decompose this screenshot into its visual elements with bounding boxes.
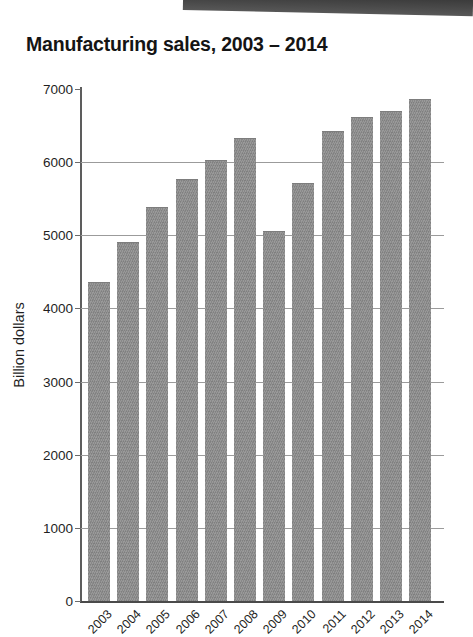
- y-tick-mark-2000: [75, 455, 81, 456]
- chart-title: Manufacturing sales, 2003 – 2014: [26, 33, 327, 56]
- y-tick-mark-4000: [75, 308, 81, 309]
- bar-2009: [263, 231, 285, 601]
- x-axis-line: [80, 601, 444, 603]
- bar-2013: [380, 111, 402, 601]
- y-tick-label-6000: 6000: [13, 155, 73, 170]
- y-tick-mark-1000: [75, 528, 81, 529]
- scan-edge-artifact: [183, 0, 473, 16]
- plot-area: 01000200030004000500060007000 Billion do…: [81, 89, 444, 601]
- bar-2012: [351, 117, 373, 601]
- y-tick-mark-5000: [75, 235, 81, 236]
- bar-2014: [409, 99, 431, 601]
- y-tick-mark-6000: [75, 162, 81, 163]
- bar-2004: [117, 242, 139, 601]
- y-tick-mark-3000: [75, 382, 81, 383]
- bar-2007: [205, 160, 227, 601]
- y-axis-line: [80, 87, 82, 602]
- bar-2011: [322, 131, 344, 601]
- y-tick-label-2000: 2000: [13, 447, 73, 462]
- bar-2003: [88, 282, 110, 601]
- bar-2005: [146, 207, 168, 602]
- y-tick-mark-0: [75, 601, 81, 602]
- bar-2006: [176, 179, 198, 601]
- y-axis-title: Billion dollars: [11, 302, 27, 387]
- y-tick-label-0: 0: [13, 594, 73, 609]
- y-tick-label-7000: 7000: [13, 82, 73, 97]
- bar-2008: [234, 138, 256, 601]
- y-tick-mark-7000: [75, 89, 81, 90]
- y-tick-label-5000: 5000: [13, 228, 73, 243]
- bar-2010: [292, 183, 314, 601]
- y-tick-label-1000: 1000: [13, 520, 73, 535]
